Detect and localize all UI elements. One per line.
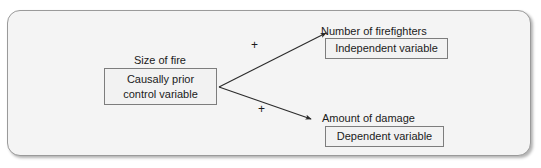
causally-prior-control-variable-box: Causally prior control variable xyxy=(104,68,217,105)
size-of-fire-caption: Size of fire xyxy=(104,54,216,67)
amount-of-damage-caption: Amount of damage xyxy=(322,112,415,125)
independent-variable-box: Independent variable xyxy=(325,38,448,59)
causal-diagram-figure: Size of fire Causally prior control vari… xyxy=(0,0,541,168)
edge-sign-dependent: + xyxy=(258,103,265,115)
dependent-variable-box: Dependent variable xyxy=(325,126,444,147)
diagram-panel xyxy=(7,10,531,156)
number-of-firefighters-caption: Number of firefighters xyxy=(321,25,427,38)
edge-sign-independent: + xyxy=(251,39,258,51)
